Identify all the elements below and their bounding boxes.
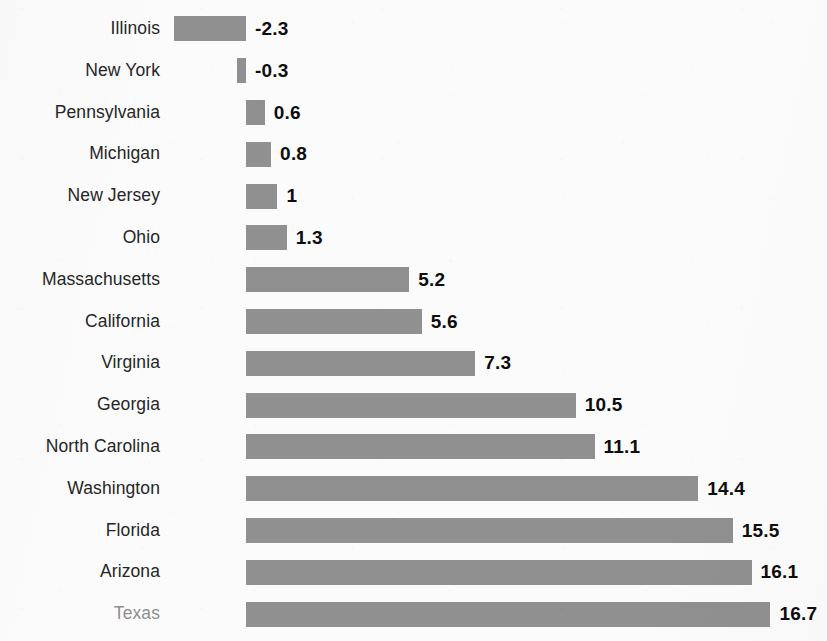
- bar: [246, 476, 698, 501]
- value-label: 15.5: [742, 521, 780, 540]
- bar-row: New York-0.3: [0, 50, 827, 92]
- value-label: 16.1: [761, 562, 799, 581]
- category-label: Texas: [114, 605, 160, 623]
- bar: [246, 602, 770, 627]
- value-label: 16.7: [779, 604, 817, 623]
- bar: [174, 16, 246, 41]
- bar: [246, 100, 265, 125]
- bar-row: Virginia7.3: [0, 343, 827, 385]
- value-label: -2.3: [255, 19, 289, 38]
- value-label: 1.3: [296, 228, 323, 247]
- bar: [246, 142, 271, 167]
- value-label: 14.4: [707, 479, 745, 498]
- value-label: 0.6: [274, 103, 301, 122]
- bar: [246, 184, 277, 209]
- category-label: Pennsylvania: [55, 104, 160, 122]
- category-label: Florida: [106, 522, 160, 540]
- bar-row: Arizona16.1: [0, 552, 827, 594]
- bar-row: Texas16.7: [0, 593, 827, 635]
- bar: [237, 58, 246, 83]
- bar-row: California5.6: [0, 301, 827, 343]
- value-label: 5.2: [418, 270, 445, 289]
- value-label: 1: [286, 186, 297, 205]
- value-label: 11.1: [604, 437, 641, 456]
- category-label: Michigan: [89, 145, 160, 163]
- plot-area: Illinois-2.3New York-0.3Pennsylvania0.6M…: [0, 0, 827, 641]
- bar-row: New Jersey1: [0, 175, 827, 217]
- category-label: North Carolina: [46, 438, 160, 456]
- bar: [246, 351, 475, 376]
- bar: [246, 518, 733, 543]
- bar: [246, 309, 422, 334]
- bar: [246, 560, 752, 585]
- category-label: Illinois: [111, 20, 160, 38]
- value-label: 10.5: [585, 395, 623, 414]
- bar-row: Ohio1.3: [0, 217, 827, 259]
- bar-row: Pennsylvania0.6: [0, 92, 827, 134]
- bar-chart: Illinois-2.3New York-0.3Pennsylvania0.6M…: [0, 0, 827, 641]
- bar: [246, 393, 576, 418]
- bar-row: Florida15.5: [0, 510, 827, 552]
- value-label: 7.3: [484, 353, 511, 372]
- bar-row: Washington14.4: [0, 468, 827, 510]
- bar-row: Massachusetts5.2: [0, 259, 827, 301]
- bar-row: Michigan0.8: [0, 134, 827, 176]
- bar-row: Georgia10.5: [0, 384, 827, 426]
- bar-row: Illinois-2.3: [0, 8, 827, 50]
- category-label: New Jersey: [68, 187, 160, 205]
- category-label: Arizona: [100, 563, 160, 581]
- category-label: California: [85, 313, 160, 331]
- bar: [246, 267, 409, 292]
- category-label: Georgia: [97, 396, 160, 414]
- category-label: Virginia: [101, 354, 160, 372]
- value-label: -0.3: [255, 61, 289, 80]
- value-label: 0.8: [280, 144, 307, 163]
- bar: [246, 434, 595, 459]
- value-label: 5.6: [431, 312, 458, 331]
- category-label: Massachusetts: [42, 271, 160, 289]
- category-label: Ohio: [123, 229, 160, 247]
- category-label: Washington: [67, 480, 160, 498]
- bar-row: North Carolina11.1: [0, 426, 827, 468]
- bar: [246, 225, 287, 250]
- category-label: New York: [85, 62, 160, 80]
